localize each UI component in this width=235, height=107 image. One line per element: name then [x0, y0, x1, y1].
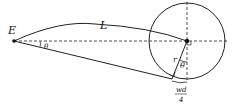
label-theta-center: θ	[180, 61, 185, 70]
label-theta-E: θ	[44, 43, 49, 51]
geometry-diagram: E L θ r θ wd 4	[0, 0, 235, 107]
arc-length-bracket	[172, 81, 187, 83]
angle-arc-E	[40, 41, 41, 47]
label-r: r	[173, 55, 178, 64]
sight-line	[14, 41, 172, 79]
label-arc-numerator: wd	[176, 86, 187, 94]
label-L: L	[99, 19, 107, 32]
label-E: E	[7, 24, 16, 37]
point-E-dot	[12, 39, 16, 43]
center-dot	[185, 39, 189, 43]
label-arc-denominator: 4	[178, 96, 183, 104]
